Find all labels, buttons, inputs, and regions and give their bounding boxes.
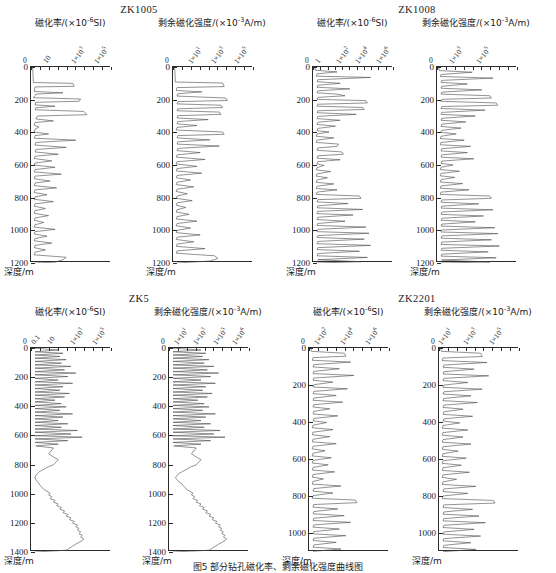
depth-label: 200 [157, 95, 171, 105]
depth-label: 200 [421, 95, 435, 105]
log-trace [309, 348, 389, 552]
panel-title-susceptibility: 磁化率/(×10-6SI) [35, 305, 106, 318]
x-tick-labels: 01×1021×1041×106 [308, 320, 388, 346]
depth-label: 200 [293, 380, 307, 390]
depth-label: 1000 [10, 225, 28, 235]
x-tick [389, 348, 390, 351]
y-tick [437, 263, 441, 264]
depth-label: 1200 [10, 518, 28, 528]
depth-label: 800 [157, 193, 171, 203]
y-tick [31, 552, 35, 553]
depth-label: 800 [15, 460, 29, 470]
depth-label: 400 [297, 127, 311, 137]
hole-block-zk1008: ZK1008磁化率/(×10-6SI)011×1021×1041×1060200… [278, 4, 556, 289]
depth-label: 0 [430, 62, 435, 72]
depth-label: 800 [153, 460, 167, 470]
depth-label: 800 [297, 193, 311, 203]
panel-title-susceptibility: 磁化率/(×10-6SI) [317, 16, 388, 29]
depth-label: 0 [162, 343, 167, 353]
depth-label: 800 [15, 193, 29, 203]
y-tick [313, 263, 317, 264]
depth-label: 200 [153, 372, 167, 382]
x-tick-label: 1×105 [89, 325, 109, 346]
x-tick-label: 1×101 [185, 44, 205, 65]
log-trace [313, 67, 393, 263]
plot-box: 020040060080010001200 [172, 66, 252, 262]
depth-axis-caption: 深度/m [286, 265, 316, 278]
hole-block-zk2201: ZK2201磁化率/(×10-6SI)01×1021×1041×10602004… [278, 293, 556, 571]
x-tick-label: 10 [41, 54, 53, 65]
depth-label: 1000 [10, 489, 28, 499]
x-tick-label: 1×105 [473, 44, 493, 65]
hole-block-zk1005: ZK1005磁化率/(×10-6SI)0101×1031×10502004006… [0, 4, 278, 289]
x-tick-label: 1×101 [435, 325, 455, 346]
x-tick [111, 348, 112, 351]
panel-title-susceptibility: 磁化率/(×10-6SI) [313, 305, 384, 318]
x-tick-labels: 011×1021×1041×106 [312, 39, 392, 65]
depth-label: 400 [157, 127, 171, 137]
depth-label: 600 [297, 160, 311, 170]
depth-label: 0 [24, 343, 29, 353]
x-tick-label: 1×103 [67, 325, 87, 346]
figure-caption: 图5 部分钻孔磁化率、剩余磁化强度曲线图 [0, 560, 556, 573]
panel-title-susceptibility: 磁化率/(×10-6SI) [35, 16, 106, 29]
log-trace [169, 348, 249, 552]
x-tick-label: 1×102 [311, 325, 331, 346]
x-tick [111, 67, 112, 70]
x-tick-labels: 00.1101×1031×105 [30, 320, 110, 346]
x-tick [249, 348, 250, 351]
x-tick-label: 0.1 [29, 333, 42, 346]
panel-title-remanence: 剩余磁化强度/(×10-3A/m) [424, 305, 532, 318]
depth-label: 400 [293, 417, 307, 427]
x-tick-label: 10 [45, 335, 57, 346]
x-tick-labels: 0101×1031×105 [30, 39, 110, 65]
x-tick [519, 348, 520, 351]
hole-title: ZK1005 [0, 4, 278, 15]
panel-title-remanence: 剩余磁化强度/(×10-3A/m) [422, 16, 530, 29]
x-tick-label: 1×105 [231, 44, 251, 65]
depth-label: 400 [423, 417, 437, 427]
x-tick [517, 67, 518, 70]
log-trace [173, 67, 253, 263]
depth-label: 0 [302, 343, 307, 353]
x-tick-label: 1×106 [229, 325, 249, 346]
x-tick-label: 1×103 [445, 44, 465, 65]
x-tick-labels: 01×1031×105 [436, 39, 516, 65]
x-tick-label: 1×106 [362, 325, 382, 346]
x-tick-label: 1×102 [333, 44, 353, 65]
depth-label: 800 [423, 491, 437, 501]
depth-label: 600 [293, 454, 307, 464]
depth-label: 1000 [292, 225, 310, 235]
depth-label: 600 [157, 160, 171, 170]
log-trace [31, 348, 111, 552]
depth-label: 0 [306, 62, 311, 72]
log-trace [31, 67, 111, 263]
depth-label: 0 [432, 343, 437, 353]
panel-title-remanence: 剩余磁化强度/(×10-3A/m) [154, 305, 262, 318]
depth-label: 600 [153, 430, 167, 440]
log-trace [437, 67, 517, 263]
x-tick-label: 1×106 [373, 44, 393, 65]
depth-label: 600 [421, 160, 435, 170]
x-tick-label: 1×104 [337, 325, 357, 346]
depth-label: 1000 [288, 528, 306, 538]
x-tick-label: 1×101 [171, 325, 191, 346]
plot-box: 0200400600800100012001400 [168, 347, 248, 551]
depth-label: 400 [15, 401, 29, 411]
x-tick-labels: 01×1011×1031×1051×106 [168, 320, 248, 346]
depth-axis-caption: 深度/m [146, 265, 176, 278]
depth-label: 400 [421, 127, 435, 137]
panel-title-remanence: 剩余磁化强度/(×10-3A/m) [158, 16, 266, 29]
y-tick [169, 552, 173, 553]
y-tick [31, 263, 35, 264]
depth-label: 0 [166, 62, 171, 72]
depth-axis-caption: 深度/m [4, 265, 34, 278]
x-tick-label: 1×103 [68, 44, 88, 65]
y-tick [173, 263, 177, 264]
x-tick-label: 1 [313, 57, 322, 65]
plot-box: 020040060080010001200 [436, 66, 516, 262]
plot-box: 020040060080010001200 [30, 66, 110, 262]
depth-label: 800 [293, 491, 307, 501]
hole-title: ZK5 [0, 293, 278, 304]
